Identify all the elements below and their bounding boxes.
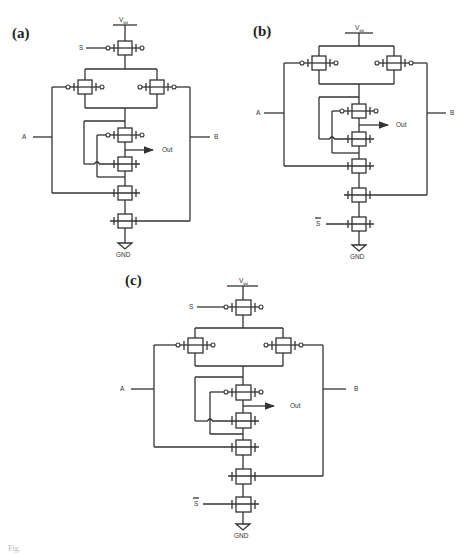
input-a-label-c: A	[120, 385, 125, 392]
circuit-b: Vdd A B	[256, 24, 454, 260]
vdd-label-c: Vdd	[239, 277, 248, 286]
ground-label-b: GND	[350, 253, 365, 260]
circuit-a: Vdd S A	[22, 16, 218, 258]
vdd-label-b: Vdd	[355, 24, 364, 33]
circuit-c: Vdd S A B	[120, 277, 358, 539]
select-label-c: S	[189, 303, 194, 310]
select-bar-label-c: S	[194, 500, 199, 507]
ground-label-c: GND	[234, 532, 249, 539]
output-label-a: Out	[162, 146, 173, 153]
output-label-b: Out	[396, 121, 407, 128]
input-b-label-a: B	[214, 133, 218, 140]
select-bar-label-b: S	[316, 220, 321, 227]
input-b-label-c: B	[354, 385, 358, 392]
input-a-label-b: A	[256, 109, 261, 116]
circuit-diagrams: Vdd S A	[0, 0, 475, 554]
figure-caption: Fig.	[8, 544, 21, 553]
ground-label-a: GND	[116, 251, 131, 258]
output-label-c: Out	[290, 402, 301, 409]
vdd-label-a: Vdd	[119, 16, 128, 25]
select-label-a: S	[79, 44, 84, 51]
input-a-label-a: A	[22, 133, 27, 140]
input-b-label-b: B	[450, 109, 454, 116]
